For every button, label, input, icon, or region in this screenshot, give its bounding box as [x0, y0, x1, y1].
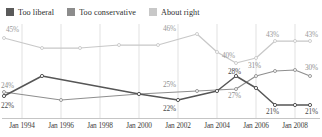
legend-swatch-too-conservative: [67, 8, 75, 16]
legend-label-too-liberal: Too liberal: [18, 8, 54, 17]
x-tick-jan-2002: Jan 2002: [165, 121, 191, 130]
data-label-about-right-1993: 45%: [6, 26, 19, 34]
x-tick-jan-1996: Jan 1996: [48, 121, 74, 130]
x-tick-jan-1994: Jan 1994: [9, 121, 35, 130]
data-label-about-right-2002: 46%: [163, 25, 176, 33]
x-tick-jan-2006: Jan 2006: [243, 121, 269, 130]
x-tick-jan-2000: Jan 2000: [126, 121, 152, 130]
legend-swatch-too-liberal: [6, 8, 14, 16]
data-label-too-liberal-2006: 21%: [266, 108, 279, 116]
x-tick-jan-2004: Jan 2004: [204, 121, 230, 130]
data-label-too-liberal-2003: 28%: [228, 68, 241, 76]
legend-label-too-conservative: Too conservative: [79, 8, 136, 17]
data-label-too-conservative-2004: 27%: [228, 92, 241, 100]
data-label-about-right-2009: 43%: [305, 31, 318, 39]
data-label-too-conservative-2005: 31%: [248, 62, 261, 70]
legend-item-too-liberal[interactable]: Too liberal: [6, 8, 54, 17]
legend-swatch-about-right: [149, 8, 157, 16]
legend-item-too-conservative[interactable]: Too conservative: [67, 8, 136, 17]
data-label-too-conservative-2009: 30%: [305, 64, 318, 72]
chart-legend: Too liberal Too conservative About right: [0, 0, 322, 24]
data-label-too-liberal-2009: 21%: [305, 108, 318, 116]
x-axis: Jan 1994 Jan 1996 Jan 1998 Jan 2000 Jan …: [0, 119, 322, 137]
gridlines-vertical: [22, 24, 295, 118]
legend-label-about-right: About right: [161, 8, 200, 17]
x-tick-jan-1998: Jan 1998: [87, 121, 113, 130]
data-label-too-conservative-1993: 24%: [1, 82, 14, 90]
legend-item-about-right[interactable]: About right: [149, 8, 200, 17]
series-too-liberal: [2, 74, 311, 106]
data-label-too-liberal-1993: 22%: [1, 102, 14, 110]
data-label-about-right-2004: 40%: [222, 52, 235, 60]
chart-figure: Too liberal Too conservative About right: [0, 0, 322, 137]
data-label-too-conservative-2002: 25%: [163, 81, 176, 89]
data-label-about-right-2006: 43%: [266, 31, 279, 39]
data-label-too-liberal-2002: 22%: [163, 105, 176, 113]
x-tick-jan-2008: Jan 2008: [282, 121, 308, 130]
